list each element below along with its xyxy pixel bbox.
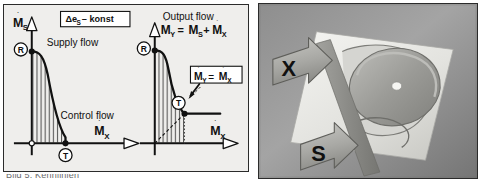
right-chart-hatch-fill [153, 47, 189, 145]
caption-text: Bild 5. Kennlinien [6, 174, 79, 180]
callout-lhs-symbol: M [194, 71, 203, 82]
right-x-axis-subscript: X [220, 132, 226, 141]
right-chart-y-axis-arrowhead [150, 23, 160, 37]
left-chart-hatch-fill [30, 48, 70, 145]
left-chart-axis-title: Control flow [61, 110, 115, 121]
callout-lhs-subscript: Y [202, 77, 207, 84]
equation-equals: = [178, 24, 184, 36]
photo-center-hole [392, 82, 402, 90]
left-chart-marker-T-dot [62, 140, 68, 146]
right-chart-x-axis-label: ̇ M X [210, 120, 226, 141]
callout-equals: = [208, 71, 214, 82]
equation-lhs-subscript: Y [170, 30, 175, 39]
equation-term1-subscript: S [198, 30, 203, 39]
left-y-axis-dot: ̇ [17, 12, 19, 13]
right-x-axis-symbol: M [210, 124, 220, 138]
equation-term2-dot: ̇ [216, 20, 218, 21]
photo-panel: X S [258, 3, 478, 179]
left-x-axis-subscript: X [104, 132, 110, 141]
diagram-svg: Δe S – konst ̇ M S [4, 5, 248, 171]
condition-box-subscript: S [76, 19, 81, 26]
caption-strip: Bild 5. Kennlinien [0, 174, 250, 183]
right-chart-marker-R-dot [152, 47, 158, 53]
diagram-panel: Δe S – konst ̇ M S [3, 4, 249, 172]
right-chart: Output flow ̇ M Y = ̇ M S + ̇ M X [137, 11, 242, 155]
photo-svg: X S [259, 4, 477, 178]
equation-plus: + [203, 24, 209, 36]
right-chart-curve-title: Output flow [163, 11, 215, 22]
condition-box-suffix: – konst [82, 14, 114, 24]
left-chart: ̇ M S [13, 12, 139, 161]
left-chart-marker-R-dot [29, 48, 35, 54]
callout-rhs-symbol: M [219, 71, 228, 82]
left-chart-marker-T-label: T [63, 151, 69, 161]
right-chart-marker-R-label: R [141, 44, 147, 54]
callout-rhs-subscript: X [227, 77, 232, 84]
condition-box-delta: Δe [65, 14, 77, 24]
photo-arrow-x-label: X [281, 56, 296, 81]
equation-term2-subscript: X [222, 30, 227, 39]
left-x-axis-symbol: M [94, 124, 104, 138]
left-chart-y-axis-arrowhead [27, 17, 37, 31]
right-chart-equation: ̇ M Y = ̇ M S + ̇ M X [161, 20, 227, 39]
left-chart-marker-R-label: R [18, 45, 24, 55]
right-x-axis-dot: ̇ [214, 120, 216, 121]
left-chart-curve-title: Supply flow [47, 37, 99, 48]
right-chart-marker-T-label: T [176, 98, 182, 108]
figure-root: Δe S – konst ̇ M S [0, 0, 481, 183]
left-y-axis-symbol: M [13, 16, 23, 30]
left-chart-x-axis-label: ̇ M X [94, 120, 110, 141]
left-chart-x-axis-arrowhead [124, 138, 139, 148]
condition-box: Δe S – konst [61, 11, 130, 26]
left-chart-origin-marker [29, 141, 34, 146]
right-chart-marker-T-dot [181, 111, 187, 117]
right-chart-callout-box: ̇ M Y = ̇ M X [190, 66, 242, 84]
photo-arrow-s-label: S [311, 141, 326, 166]
left-chart-y-axis-label: ̇ M S [13, 12, 28, 32]
